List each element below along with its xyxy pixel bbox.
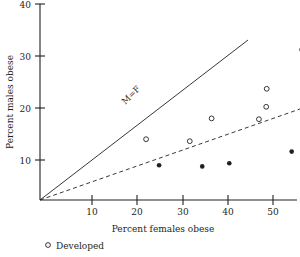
x-axis-title: Percent females obese xyxy=(112,224,215,234)
y-tick-label-40: 40 xyxy=(20,0,32,10)
data-point xyxy=(157,163,162,168)
x-tick-label-50: 50 xyxy=(267,207,279,217)
data-point xyxy=(200,164,205,169)
data-point xyxy=(289,149,294,154)
x-tick-label-20: 20 xyxy=(131,207,143,217)
chart-background xyxy=(0,0,300,257)
y-tick-label-10: 10 xyxy=(20,156,32,166)
chart-canvas: 40 30 20 10 10 20 30 40 50 M=F Percent f… xyxy=(0,0,300,257)
legend-label-developed: Developed xyxy=(56,241,104,251)
x-tick-label-30: 30 xyxy=(177,207,189,217)
y-tick-label-20: 20 xyxy=(20,104,32,114)
data-point xyxy=(227,161,232,166)
y-axis-title: Percent males obese xyxy=(5,55,15,149)
x-tick-label-40: 40 xyxy=(222,207,234,217)
x-tick-label-10: 10 xyxy=(86,207,98,217)
scatter-chart-figure: 40 30 20 10 10 20 30 40 50 M=F Percent f… xyxy=(0,0,300,257)
y-tick-label-30: 30 xyxy=(20,52,32,62)
